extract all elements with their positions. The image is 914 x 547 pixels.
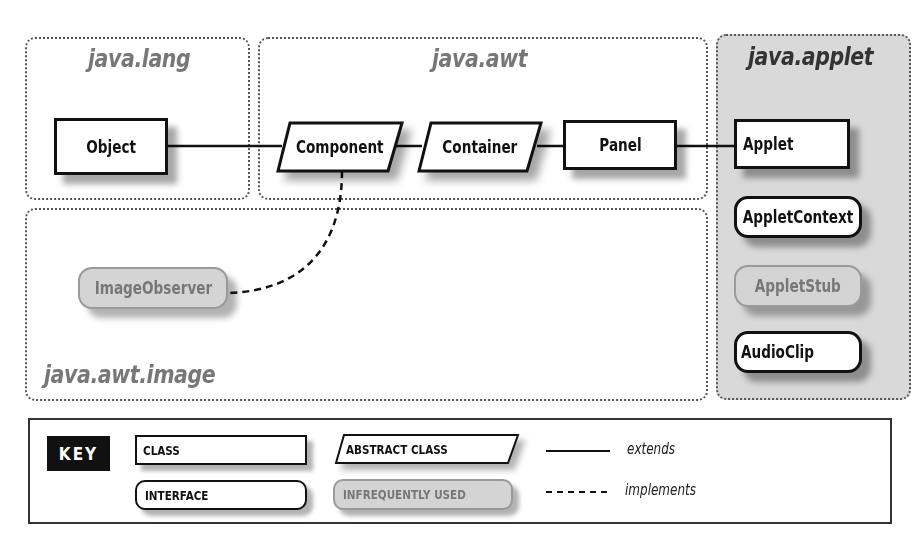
- legend-implements-text: implements: [625, 481, 696, 499]
- legend-extends-text: extends: [627, 440, 675, 458]
- legend-line-samples: [0, 0, 914, 547]
